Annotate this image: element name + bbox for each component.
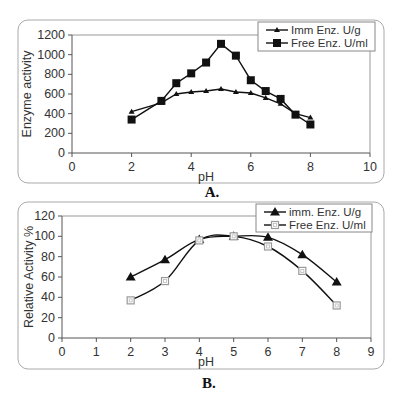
y-tick-label: 1000 [37, 48, 65, 62]
chart-panel-a: 0200400600800100012000246810pHEnzyme act… [0, 0, 402, 200]
data-point-marker [333, 302, 340, 309]
y-axis-label: Enzyme activity [20, 50, 34, 138]
x-tick-label: 10 [363, 160, 377, 174]
y-tick-label: 1200 [37, 28, 65, 42]
data-point-marker [299, 267, 306, 274]
x-tick-label: 3 [162, 345, 169, 359]
x-tick-label: 0 [69, 160, 76, 174]
data-point-marker [306, 120, 314, 128]
data-point-marker [262, 87, 270, 95]
data-point-marker [187, 69, 195, 77]
legend-label: Imm Enz. U/g [291, 24, 361, 36]
legend-label: Free Enz. U/ml [289, 219, 366, 231]
y-tick-label: 400 [44, 107, 65, 121]
legend-label: Free Enz. U/ml [291, 37, 368, 49]
legend-label: imm. Enz. U/g [289, 206, 361, 218]
y-tick-label: 0 [48, 331, 55, 345]
x-tick-label: 9 [368, 345, 375, 359]
y-tick-label: 800 [44, 67, 65, 81]
legend: Imm Enz. U/gFree Enz. U/ml [258, 22, 375, 51]
data-point-marker [230, 233, 237, 240]
x-axis-label: pH [198, 170, 214, 184]
data-point-marker [128, 116, 136, 124]
data-point-marker [162, 278, 169, 285]
y-tick-label: 60 [41, 270, 55, 284]
y-tick-label: 120 [34, 209, 55, 223]
legend-marker [272, 222, 279, 229]
data-point-marker [196, 237, 203, 244]
y-tick-label: 200 [44, 126, 65, 140]
data-point-marker [157, 97, 165, 105]
data-point-marker [202, 59, 210, 67]
data-point-marker [127, 297, 134, 304]
y-tick-label: 20 [41, 311, 55, 325]
data-point-marker [265, 243, 272, 250]
x-tick-label: 6 [265, 345, 272, 359]
x-tick-label: 0 [59, 345, 66, 359]
y-tick-label: 600 [44, 87, 65, 101]
x-tick-label: 2 [128, 160, 135, 174]
x-axis-label: pH [198, 355, 214, 369]
y-tick-label: 80 [41, 250, 55, 264]
enzyme-activity-chart: 0200400600800100012000246810pHEnzyme act… [0, 0, 402, 200]
x-tick-label: 1 [93, 345, 100, 359]
data-point-marker [172, 79, 180, 87]
y-tick-label: 0 [58, 146, 65, 160]
x-tick-label: 7 [299, 345, 306, 359]
data-point-marker [292, 111, 300, 119]
x-tick-label: 2 [127, 345, 134, 359]
x-tick-label: 6 [247, 160, 254, 174]
x-tick-label: 8 [307, 160, 314, 174]
legend-marker [273, 39, 281, 47]
y-tick-label: 40 [41, 290, 55, 304]
data-point-marker [217, 40, 225, 48]
x-tick-label: 5 [230, 345, 237, 359]
x-tick-label: 4 [188, 160, 195, 174]
figure-caption: B. [202, 375, 216, 391]
y-tick-label: 100 [34, 229, 55, 243]
chart-panel-b: 0204060801001200123456789pHRelative Acti… [0, 200, 402, 398]
x-tick-label: 8 [333, 345, 340, 359]
data-point-marker [232, 52, 240, 60]
relative-activity-chart: 0204060801001200123456789pHRelative Acti… [0, 200, 402, 398]
data-point-marker [247, 76, 255, 84]
legend: imm. Enz. U/gFree Enz. U/ml [256, 204, 372, 232]
figure-caption: A. [205, 184, 220, 200]
y-axis-label: Relative Activity % [22, 226, 36, 328]
data-point-marker [277, 95, 285, 103]
